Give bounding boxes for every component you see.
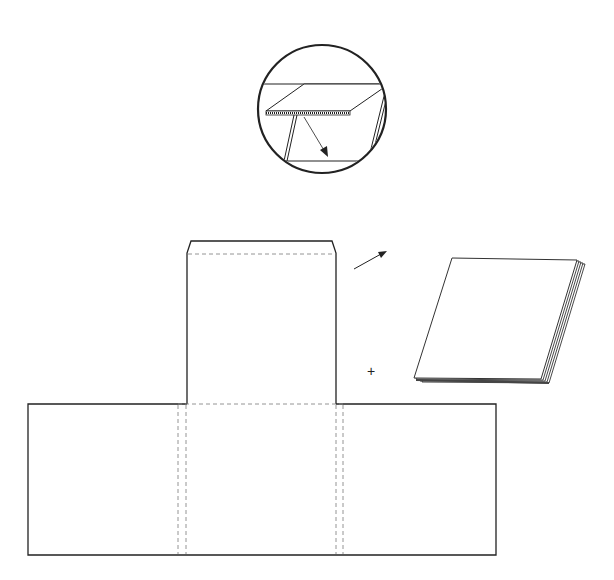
- top-flap: [187, 241, 336, 404]
- diagram-canvas: [0, 0, 614, 580]
- base-panel: [28, 404, 496, 555]
- paper-stack: [414, 258, 585, 383]
- direction-arrow: [354, 251, 387, 269]
- plus-sign: +: [367, 364, 375, 378]
- box-template: [28, 241, 496, 555]
- detail-inset: [250, 45, 400, 173]
